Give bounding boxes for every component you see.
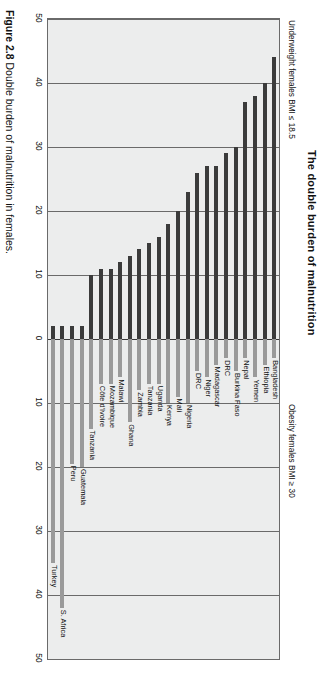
bar-underweight: [60, 326, 64, 339]
category-label: Madagascar: [214, 367, 221, 408]
bar-obesity: [195, 339, 199, 371]
axis-tick-label-1: 40: [34, 77, 44, 86]
axis-tick-label-4: 10: [34, 269, 44, 278]
bar-obesity: [99, 339, 103, 384]
gridline-pos30: [48, 531, 279, 532]
category-label: Uganda: [156, 386, 163, 412]
bar-obesity: [157, 339, 161, 384]
axis-tick-label-0: 50: [34, 13, 44, 22]
bar-obesity: [214, 339, 218, 365]
category-label: Nigeria: [185, 405, 192, 428]
category-label: Tanzania: [89, 431, 96, 461]
figure-stage: The double burden of malnutrition Underw…: [0, 0, 324, 690]
bar-underweight: [234, 147, 238, 339]
category-label: Malawi: [117, 379, 124, 402]
bar-underweight: [166, 224, 170, 339]
axis-tick-label-2: 30: [34, 141, 44, 150]
gridline-pos50: [48, 659, 279, 660]
gridline-neg50: [48, 19, 279, 20]
bar-underweight: [51, 326, 55, 339]
category-label: Peru: [69, 466, 76, 482]
bar-obesity: [234, 339, 238, 371]
bar-obesity: [70, 339, 74, 464]
axis-tick-label-3: 20: [34, 205, 44, 214]
bar-underweight: [195, 173, 199, 339]
bar-obesity: [243, 339, 247, 358]
bar-obesity: [89, 339, 93, 429]
bar-underweight: [70, 326, 74, 339]
axis-tick-label-7: 20: [34, 461, 44, 470]
bar-underweight: [214, 166, 218, 339]
chart-title: The double burden of malnutrition: [306, 150, 318, 336]
bar-obesity: [205, 339, 209, 377]
bar-underweight: [253, 96, 257, 339]
category-label: Burkina Faso: [233, 373, 240, 417]
axis-tick-label-8: 30: [34, 525, 44, 534]
bar-obesity: [109, 339, 113, 384]
bar-underweight: [263, 83, 267, 339]
category-label: Kenya: [166, 405, 173, 426]
category-label: Niger: [204, 379, 211, 397]
figure-caption-text: Double burden of malnutrition in females…: [4, 63, 16, 254]
category-label: DRC: [194, 373, 201, 389]
bar-underweight: [118, 262, 122, 339]
bar-obesity: [263, 339, 267, 365]
bar-obesity: [80, 339, 84, 467]
plot-area: [47, 18, 280, 660]
category-label: Mali: [175, 399, 182, 413]
bar-underweight: [147, 243, 151, 339]
category-label: Zambia: [137, 392, 144, 417]
category-label: DRC: [223, 360, 230, 376]
bar-obesity: [60, 339, 64, 608]
bar-obesity: [176, 339, 180, 397]
figure-number: Figure 2.8: [4, 10, 16, 60]
gridline-neg40: [48, 83, 279, 84]
axis-tick-label-5: 0: [34, 336, 44, 341]
bar-obesity: [118, 339, 122, 377]
axis-tick-label-9: 40: [34, 589, 44, 598]
category-label: Ethiopia: [262, 367, 269, 394]
bar-underweight: [80, 326, 84, 339]
category-label: Ghana: [127, 424, 134, 446]
bar-obesity: [137, 339, 141, 390]
bar-obesity: [128, 339, 132, 422]
axis-tick-label-10: 50: [34, 653, 44, 662]
bar-underweight: [99, 269, 103, 339]
obesity-axis-label: Obesity females BMI ≥ 30: [287, 404, 296, 498]
category-label: Bangladesh: [271, 360, 278, 399]
figure-caption: Figure 2.8 Double burden of malnutrition…: [4, 10, 16, 670]
bar-underweight: [186, 192, 190, 339]
bar-underweight: [176, 211, 180, 339]
bar-obesity: [51, 339, 55, 563]
category-label: Turkey: [50, 565, 57, 587]
bar-underweight: [205, 166, 209, 339]
axis-tick-label-6: 10: [34, 397, 44, 406]
bar-underweight: [137, 249, 141, 339]
bar-underweight: [109, 269, 113, 339]
category-label: Côte d'Ivoire: [98, 386, 105, 427]
bar-underweight: [89, 275, 93, 339]
category-label: Nepal: [243, 360, 250, 379]
bar-underweight: [272, 57, 276, 339]
gridline-pos40: [48, 595, 279, 596]
gridline-pos20: [48, 467, 279, 468]
bar-obesity: [147, 339, 151, 384]
category-label: Guatemala: [79, 469, 86, 505]
bar-obesity: [224, 339, 228, 358]
bar-obesity: [186, 339, 190, 403]
underweight-axis-label: Underweight females BMI ≤ 18.5: [287, 20, 296, 139]
bar-underweight: [224, 153, 228, 339]
bar-underweight: [243, 102, 247, 339]
bar-underweight: [128, 256, 132, 339]
category-label: Mozambique: [108, 386, 115, 428]
category-label: Yemen: [252, 379, 259, 402]
category-label: Tanzania: [146, 386, 153, 416]
bar-obesity: [166, 339, 170, 403]
bar-obesity: [253, 339, 257, 377]
category-label: S. Africa: [60, 610, 67, 638]
bar-underweight: [157, 237, 161, 339]
bar-obesity: [272, 339, 276, 358]
